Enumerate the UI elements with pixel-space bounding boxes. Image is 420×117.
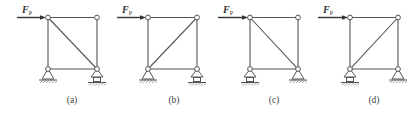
joint (348, 67, 353, 72)
truss-figure: FP (a) FP (b) FP (0, 0, 420, 117)
joint (46, 67, 51, 72)
arrowhead-icon (40, 15, 46, 19)
joint (46, 15, 51, 20)
diagonal-member (48, 18, 97, 70)
truss-panel-d: FP (d) (318, 4, 407, 106)
diagonal-member (148, 18, 197, 70)
joint (195, 15, 200, 20)
joint (146, 15, 151, 20)
force-label: FP (21, 4, 33, 16)
diagonal-member (250, 18, 298, 70)
joint (396, 67, 401, 72)
joint (95, 15, 100, 20)
panel-caption: (d) (368, 95, 379, 106)
force-label: FP (322, 4, 334, 16)
joint (248, 67, 253, 72)
diagonal-member (350, 18, 398, 70)
joint (348, 15, 353, 20)
truss-panel-b: FP (b) (117, 4, 206, 106)
truss-panel-c: FP (c) (218, 4, 307, 106)
joint (248, 15, 253, 20)
joint (296, 15, 301, 20)
joint (296, 67, 301, 72)
joint (95, 67, 100, 72)
panel-caption: (a) (67, 95, 78, 106)
panel-caption: (b) (168, 95, 179, 106)
joint (146, 67, 151, 72)
joint (195, 67, 200, 72)
panel-caption: (c) (269, 95, 280, 106)
force-label: FP (222, 4, 234, 16)
truss-panel-a: FP (a) (17, 4, 106, 106)
joint (396, 15, 401, 20)
force-label: FP (121, 4, 133, 16)
